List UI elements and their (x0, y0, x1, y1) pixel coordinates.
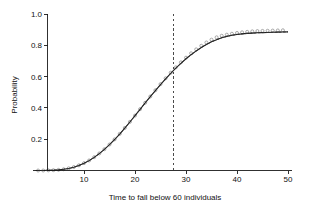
data-point-marker (251, 30, 254, 33)
x-tick-label: 30 (182, 175, 191, 184)
data-point-marker (210, 38, 213, 41)
data-point-marker (256, 30, 259, 33)
data-point-marker (261, 29, 264, 32)
x-tick-label: 40 (233, 175, 242, 184)
y-tick-label: 0.2 (31, 135, 43, 144)
data-point-marker (220, 34, 223, 37)
x-tick-label: 20 (131, 175, 140, 184)
y-tick-label: 0.4 (31, 104, 43, 113)
series-fitted-model-line (33, 32, 288, 171)
y-tick-label: 0.6 (31, 73, 43, 82)
y-tick-label: 1.0 (31, 10, 43, 19)
data-point-marker (266, 29, 269, 32)
series-layer (33, 29, 288, 172)
series-empirical-cdf-markers (37, 29, 285, 172)
x-tick-label: 10 (80, 175, 89, 184)
data-point-marker (215, 36, 218, 39)
y-tick-label: 0.8 (31, 41, 43, 50)
y-axis-title: Probability (10, 76, 19, 113)
data-point-marker (281, 29, 284, 32)
chart-figure: 0.20.40.60.81.01020304050 Time to fall b… (0, 0, 309, 208)
chart-canvas: 0.20.40.60.81.01020304050 Time to fall b… (0, 0, 309, 208)
axis-tick-labels: 0.20.40.60.81.01020304050 (31, 10, 293, 184)
x-tick-label: 50 (284, 175, 293, 184)
data-point-marker (271, 29, 274, 32)
axes-layer (44, 14, 291, 174)
data-point-marker (276, 29, 279, 32)
series-confidence-dashed-line (33, 32, 288, 171)
x-axis-title: Time to fall below 60 individuals (109, 193, 222, 202)
